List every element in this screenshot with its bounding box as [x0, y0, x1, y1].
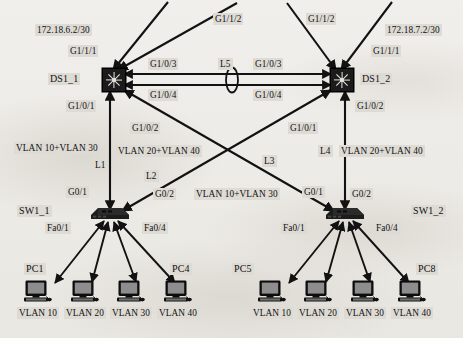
link-ds1_2-g1-1-1-uplink — [341, 2, 392, 70]
device-sw1_2[interactable] — [326, 206, 364, 221]
vlan-label-pc4: VLAN 40 — [157, 307, 199, 319]
subnet-label-right: 172.18.7.2/30 — [385, 24, 442, 36]
port-label-sw1_2-g0-2: G0/2 — [350, 188, 373, 200]
port-label-ds1_2-g1-1-2: G1/1/2 — [306, 13, 336, 25]
port-label-sw1_2-fa0-1: Fa0/1 — [281, 222, 307, 234]
link-label-l4: L4 — [318, 145, 333, 157]
host-label-pc1: PC1 — [24, 263, 46, 275]
host-label-pc8: PC8 — [416, 263, 438, 275]
host-label-pc5: PC5 — [232, 263, 254, 275]
device-pc8[interactable] — [397, 279, 427, 305]
device-ds1_2[interactable] — [330, 68, 354, 92]
msw-hub — [112, 78, 116, 82]
vlan-label-pc6: VLAN 20 — [297, 307, 339, 319]
port-label-ds1_1-g1-0-1: G1/0/1 — [66, 100, 96, 112]
vlan-label-pc7: VLAN 30 — [344, 307, 386, 319]
device-label-ds1_1: DS1_1 — [48, 73, 80, 85]
link-label-l2: L2 — [144, 170, 159, 182]
vlan-label-pc8: VLAN 40 — [391, 307, 433, 319]
device-label-sw1_2: SW1_2 — [411, 205, 446, 217]
port-label-ds1_1-g1-0-4: G1/0/4 — [148, 89, 178, 101]
link-label-l3: L3 — [262, 155, 277, 167]
link-sw1_1-fa0-2-pc2 — [92, 222, 108, 282]
vlan-trunk-label-l3: VLAN 10+VLAN 30 — [194, 188, 280, 200]
vlan-label-pc5: VLAN 10 — [251, 307, 293, 319]
device-pc6[interactable] — [303, 279, 333, 305]
link-sw1_2-fa0-2-pc6 — [326, 222, 343, 282]
port-label-sw1_1-fa0-4: Fa0/4 — [142, 222, 168, 234]
device-sw1_1[interactable] — [91, 206, 129, 221]
vlan-trunk-label-l4: VLAN 20+VLAN 40 — [339, 145, 425, 157]
vlan-label-pc2: VLAN 20 — [64, 307, 106, 319]
network-topology-diagram: 172.18.6.2/30 G1/1/1 G1/1/2 DS1_1 G1/0/3… — [0, 0, 463, 338]
port-label-sw1_2-fa0-4: Fa0/4 — [374, 222, 400, 234]
device-label-ds1_2: DS1_2 — [360, 73, 392, 85]
device-pc3[interactable] — [116, 279, 146, 305]
vlan-label-pc3: VLAN 30 — [110, 307, 152, 319]
link-label-l5: L5 — [218, 58, 233, 70]
vlan-label-pc1: VLAN 10 — [17, 307, 59, 319]
port-label-ds1_2-g1-0-2: G1/0/2 — [355, 100, 385, 112]
link-label-l1: L1 — [93, 159, 108, 171]
port-label-sw1_1-g0-2: G0/2 — [153, 188, 176, 200]
vlan-trunk-label-l1: VLAN 10+VLAN 30 — [14, 142, 100, 154]
device-ds1_1[interactable] — [102, 68, 126, 92]
port-label-ds1_2-g1-0-3: G1/0/3 — [253, 58, 283, 70]
port-label-sw1_1-g0-1: G0/1 — [66, 186, 89, 198]
port-label-ds1_1-g1-0-2: G1/0/2 — [130, 122, 160, 134]
host-label-pc4: PC4 — [170, 263, 192, 275]
device-pc2[interactable] — [70, 279, 100, 305]
device-pc1[interactable] — [23, 279, 53, 305]
link-sw1_2-fa0-3-pc7 — [349, 222, 370, 282]
device-label-sw1_1: SW1_1 — [17, 205, 52, 217]
port-label-sw1_1-fa0-1: Fa0/1 — [45, 222, 71, 234]
port-label-ds1_1-g1-1-1: G1/1/1 — [68, 45, 98, 57]
device-pc5[interactable] — [257, 279, 287, 305]
port-label-sw1_2-g0-1: G0/1 — [302, 186, 325, 198]
port-label-ds1_2-g1-1-1: G1/1/1 — [371, 45, 401, 57]
subnet-label-left: 172.18.6.2/30 — [35, 24, 92, 36]
port-label-ds1_1-g1-0-3: G1/0/3 — [148, 58, 178, 70]
device-pc4[interactable] — [163, 279, 193, 305]
link-sw1_1-fa0-3-pc3 — [114, 222, 136, 282]
msw-hub — [340, 78, 344, 82]
vlan-trunk-label-l2: VLAN 20+VLAN 40 — [116, 145, 202, 157]
l5-bundle-ellipse — [226, 68, 238, 93]
port-label-ds1_1-g1-1-2: G1/1/2 — [213, 13, 243, 25]
port-label-ds1_2-g1-0-4: G1/0/4 — [253, 89, 283, 101]
port-label-ds1_2-g1-0-1: G1/0/1 — [288, 122, 318, 134]
device-pc7[interactable] — [350, 279, 380, 305]
